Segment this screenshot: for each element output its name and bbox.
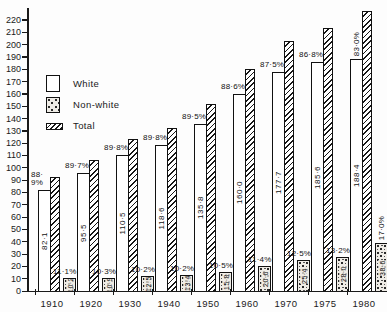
legend: White Non-white Total (46, 74, 126, 137)
x-group-tick-mark (191, 289, 192, 295)
x-category-label: 1960 (230, 298, 264, 309)
white-value-label: 185·6 (313, 166, 322, 189)
y-tick-mark (22, 155, 27, 156)
x-category-label: 1980 (347, 298, 381, 309)
y-tick-mark (22, 241, 27, 242)
white-value-label: 118·6 (157, 207, 166, 229)
y-tick-text: 220 (6, 15, 21, 25)
y-tick-mark (22, 81, 27, 82)
y-tick-text: 20 (11, 261, 21, 271)
white-swatch-icon (46, 75, 60, 92)
x-category-label: 1920 (74, 298, 108, 309)
white-pct-label: 86·8% (299, 50, 323, 59)
white-value-label: 95·5 (79, 224, 88, 242)
nonwhite-value-label: 15·8 (222, 274, 230, 290)
y-tick-text: 40 (11, 237, 21, 247)
x-group-tick-mark (347, 289, 348, 295)
x-category-label: 1950 (191, 298, 225, 309)
nonwhite-pct-label: 10·3% (92, 267, 116, 276)
y-tick-mark (22, 32, 27, 33)
y-tick-text: 190 (6, 52, 21, 62)
white-pct-label: 83·0% (352, 32, 361, 56)
nonwhite-pct-label: 10·5% (209, 261, 233, 270)
nonwhite-bar: 38·6 (375, 243, 387, 291)
y-tick-mark (22, 56, 27, 57)
total-swatch-icon (46, 123, 63, 130)
y-tick-mark (22, 192, 27, 193)
nonwhite-value-label: 10·9 (105, 278, 113, 291)
y-tick-mark (22, 19, 27, 20)
y-tick-text: 110 (7, 150, 21, 160)
nonwhite-value-label: 13·4 (183, 275, 191, 291)
nonwhite-value-label: 28·0 (339, 266, 347, 282)
white-value-label: 177·7 (274, 171, 283, 194)
nonwhite-swatch-icon (46, 97, 60, 113)
legend-label-total: Total (73, 120, 95, 131)
nonwhite-pct-label: 11·1% (53, 267, 77, 276)
white-value-label: 110·5 (118, 212, 127, 234)
y-tick-text: 80 (11, 187, 21, 197)
nonwhite-pct-label: 17·0% (377, 216, 386, 240)
nonwhite-bar: 28·0 (336, 257, 349, 291)
x-group-tick-mark (308, 289, 309, 295)
nonwhite-pct-label: 10·2% (170, 264, 194, 273)
nonwhite-value-label: 10·2 (66, 278, 74, 291)
y-tick-mark (22, 93, 27, 94)
y-tick-mark (22, 291, 27, 292)
y-tick-text: 160 (6, 89, 21, 99)
nonwhite-pct-label: 12·5% (287, 249, 311, 258)
legend-label-nonwhite: Non-white (73, 99, 119, 110)
white-pct-label: 89·8% (104, 143, 128, 152)
y-tick-mark (22, 266, 27, 267)
y-tick-mark (22, 278, 27, 279)
white-pct-label: 89·5% (182, 112, 206, 121)
x-group-tick-mark (152, 289, 153, 295)
nonwhite-bar: 20·6 (258, 266, 271, 291)
white-value-label: 160·0 (235, 181, 244, 204)
y-tick-mark (22, 167, 27, 168)
nonwhite-bar: 25·4 (297, 260, 310, 291)
y-tick-text: 130 (6, 126, 21, 136)
legend-item-white: White (46, 74, 126, 95)
x-group-tick-mark (230, 289, 231, 295)
y-axis (27, 8, 29, 292)
nonwhite-pct-label: 11·4% (248, 255, 272, 264)
x-category-label: 1910 (35, 298, 69, 309)
y-tick-mark (22, 180, 27, 181)
legend-item-nonwhite: Non-white (46, 95, 126, 116)
y-tick-text: 70 (11, 200, 21, 210)
y-tick-text: 60 (11, 212, 21, 222)
legend-label-white: White (73, 78, 99, 89)
x-category-label: 1975 (308, 298, 342, 309)
x-group-tick-mark (35, 289, 36, 295)
white-pct-label: 88·9% (31, 171, 50, 188)
white-value-label: 82·1 (40, 232, 49, 250)
y-tick-mark (22, 118, 27, 119)
x-group-tick-mark (113, 289, 114, 295)
nonwhite-pct-label: 10·2% (131, 265, 155, 274)
total-bar (362, 11, 372, 291)
nonwhite-value-label: 38·6 (378, 260, 386, 276)
white-pct-label: 89·8% (143, 133, 167, 142)
y-tick-text: 180 (6, 64, 21, 74)
nonwhite-value-label: 20·6 (261, 271, 269, 287)
population-by-race-bar-chart: 0102030405060708090100110120130140150160… (0, 0, 387, 312)
x-group-tick-mark (269, 289, 270, 295)
nonwhite-value-label: 12·5 (144, 276, 152, 291)
x-category-label: 1940 (152, 298, 186, 309)
x-category-label: 1930 (113, 298, 147, 309)
white-pct-label: 87·5% (260, 60, 284, 69)
y-tick-mark (22, 254, 27, 255)
y-tick-text: 150 (6, 101, 21, 111)
y-tick-mark (22, 204, 27, 205)
x-category-label: 1970 (269, 298, 303, 309)
x-group-tick-mark (74, 289, 75, 295)
y-tick-mark (22, 69, 27, 70)
y-tick-text: 30 (11, 249, 21, 259)
y-tick-text: 120 (6, 138, 21, 148)
y-tick-text: 90 (11, 175, 21, 185)
y-tick-mark (22, 44, 27, 45)
y-tick-text: 100 (6, 163, 21, 173)
white-pct-label: 89·7% (65, 161, 89, 170)
y-tick-text: 170 (6, 77, 21, 87)
